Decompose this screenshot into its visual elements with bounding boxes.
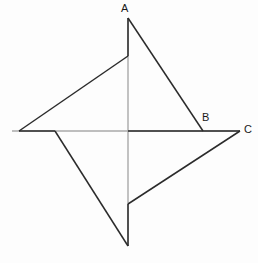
vertex-label-a: A [121,3,128,14]
bottom-left-blade [55,131,128,246]
axis-group [12,18,240,246]
top-left-blade [19,56,128,131]
bottom-right-blade [128,131,240,204]
geometry-figure: A B C [0,0,258,263]
vertex-label-c: C [244,124,252,135]
vertex-label-b: B [202,112,209,123]
figure-canvas [0,0,258,263]
blade-group [19,18,240,246]
top-right-blade [128,18,203,131]
